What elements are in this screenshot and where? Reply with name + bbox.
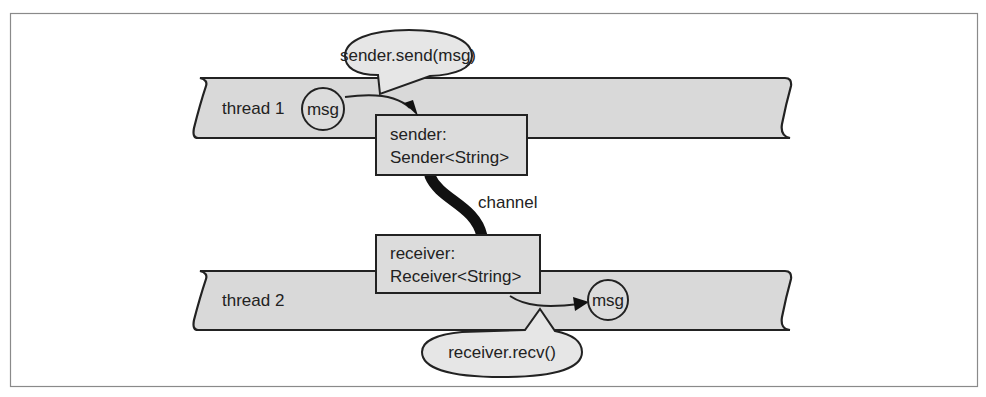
- thread-1-label: thread 1: [222, 99, 284, 118]
- msg-circle-1-label: msg: [307, 100, 339, 119]
- sender-box-label-1: sender:: [390, 125, 447, 144]
- sender-box-label-2: Sender<String>: [390, 148, 509, 167]
- receiver-box-label-1: receiver:: [390, 244, 455, 263]
- recv-callout-label: receiver.recv(): [448, 343, 556, 362]
- thread-2-label: thread 2: [222, 291, 284, 310]
- channel-diagram: thread 1 thread 2 channel sender: Sender…: [0, 0, 986, 397]
- receiver-box-label-2: Receiver<String>: [390, 267, 521, 286]
- channel-label: channel: [478, 193, 538, 212]
- send-callout-label: sender.send(msg): [340, 46, 476, 65]
- msg-circle-2-label: msg: [592, 291, 624, 310]
